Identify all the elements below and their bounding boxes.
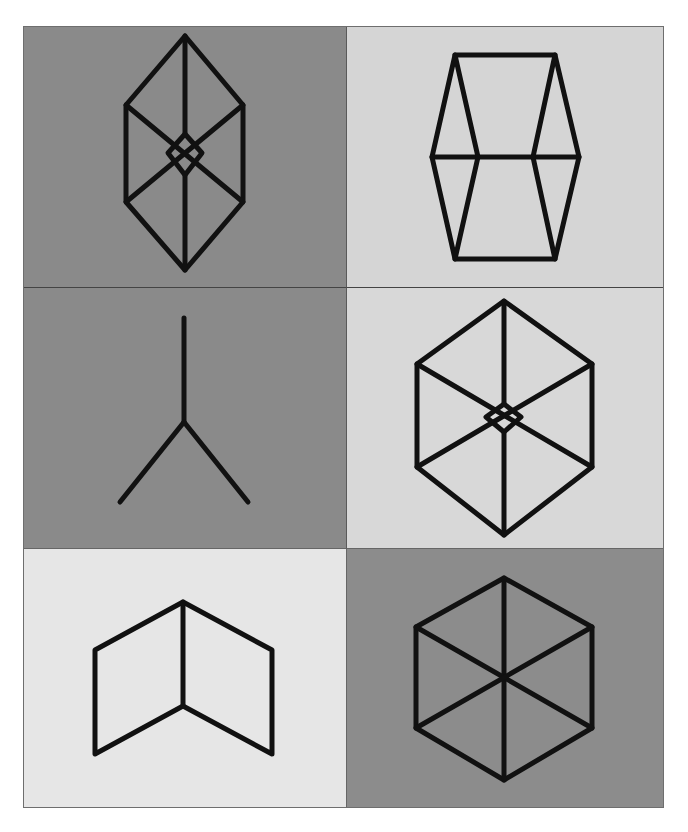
shape-sliced-prism-icon [126, 36, 243, 270]
shape-y-junction-icon [120, 318, 248, 502]
shape-hex-prism-icon [432, 55, 579, 259]
shapes-layer [0, 0, 688, 832]
shape-hexagon-inner-square-icon [417, 301, 592, 535]
shape-open-book-icon [95, 602, 272, 754]
shape-hexagon-diagonals-icon [416, 578, 592, 780]
